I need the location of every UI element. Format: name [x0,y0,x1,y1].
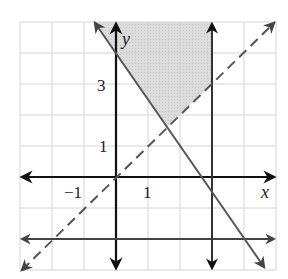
tick-label-x-neg1: −1 [64,183,82,202]
tick-label-y3: 3 [97,76,106,95]
coordinate-plane: y x 3 1 −1 1 [0,0,288,279]
tick-label-y1: 1 [99,137,108,156]
x-axis-label: x [260,182,269,202]
y-axis-label: y [120,29,130,49]
shaded-solution-region [95,22,212,127]
tick-label-x1: 1 [143,183,152,202]
